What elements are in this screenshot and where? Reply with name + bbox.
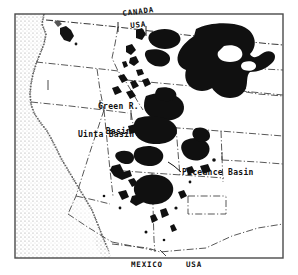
label-usa-south: USA [186, 261, 202, 269]
label-green-river-basin-line1: Green R. [98, 103, 139, 111]
label-green-river-basin: Green R. Basin [98, 86, 139, 153]
map-body [15, 14, 283, 258]
label-piceance-basin: Piceance Basin [182, 169, 254, 177]
label-mexico: MEXICO [131, 261, 163, 269]
map-canvas [0, 0, 298, 275]
label-usa-north: USA [130, 21, 147, 30]
label-uinta-basin: Uinta Basin [78, 131, 134, 139]
oil-shale-basins-map: CANADA USA Green R. Basin Uinta Basin Pi… [0, 0, 298, 275]
